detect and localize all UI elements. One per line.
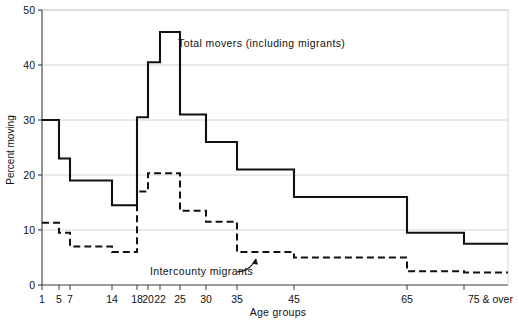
x-tick-label-20: 20 <box>142 293 154 305</box>
y-tick-label-0: 0 <box>29 279 35 291</box>
annotation-total-movers: Total movers (including migrants) <box>178 37 345 49</box>
x-tick-label-75-and-over: 75 & over <box>468 293 513 305</box>
x-tick-label-30: 30 <box>200 293 212 305</box>
y-tick-label-10: 10 <box>23 224 35 236</box>
annotation-intercounty-migrants: Intercounty migrants <box>150 265 253 277</box>
x-tick-label-1: 1 <box>39 293 45 305</box>
x-tick-label-7: 7 <box>67 293 73 305</box>
y-tick-label-20: 20 <box>23 169 35 181</box>
y-tick-label-50: 50 <box>23 4 35 16</box>
x-axis-title: Age groups <box>250 306 307 318</box>
y-axis-title: Percent moving <box>5 115 16 184</box>
x-tick-label-25: 25 <box>174 293 186 305</box>
y-tick-label-40: 40 <box>23 59 35 71</box>
chart-container: 0102030405015714182022253035456575 & ove… <box>0 0 519 323</box>
percent-moving-by-age-chart: 0102030405015714182022253035456575 & ove… <box>0 0 519 323</box>
x-tick-label-35: 35 <box>231 293 243 305</box>
x-tick-label-65: 65 <box>401 293 413 305</box>
y-tick-label-30: 30 <box>23 114 35 126</box>
x-tick-label-5: 5 <box>56 293 62 305</box>
x-tick-label-45: 45 <box>288 293 300 305</box>
x-tick-label-22: 22 <box>154 293 166 305</box>
x-tick-label-14: 14 <box>106 293 118 305</box>
